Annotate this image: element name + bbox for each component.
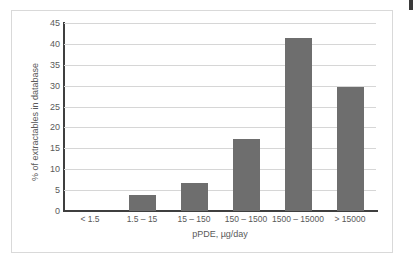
bar[interactable] <box>181 183 208 211</box>
bar[interactable] <box>129 195 156 211</box>
y-axis-tick-label: 10 <box>16 164 60 174</box>
y-axis-tick-label: 45 <box>16 18 60 28</box>
y-axis-tick-label: 40 <box>16 39 60 49</box>
y-axis-tick-label: 0 <box>16 206 60 216</box>
y-axis-tick-labels: 051015202530354045 <box>12 23 60 211</box>
bar[interactable] <box>233 139 260 211</box>
plot-area <box>64 23 376 211</box>
x-axis-title: pPDE, µg/day <box>64 229 376 239</box>
bar-slot <box>168 23 220 211</box>
x-axis-tick-label: < 1.5 <box>64 214 116 225</box>
y-axis-tick-label: 25 <box>16 102 60 112</box>
bar-slot <box>324 23 376 211</box>
y-axis-tick-label: 35 <box>16 60 60 70</box>
bar[interactable] <box>337 87 364 211</box>
bar[interactable] <box>285 38 312 211</box>
y-axis-tick-label: 20 <box>16 122 60 132</box>
x-axis-tick-label: 1.5 – 15 <box>116 214 168 225</box>
x-axis-tick-label: 15 – 150 <box>168 214 220 225</box>
x-axis-tick-labels: < 1.51.5 – 1515 – 150150 – 15001500 – 15… <box>64 214 376 225</box>
page-corner-mark <box>409 0 413 10</box>
bar-series <box>64 23 376 211</box>
bar-slot <box>64 23 116 211</box>
bar-slot <box>116 23 168 211</box>
y-axis-tick-label: 5 <box>16 185 60 195</box>
y-axis-tick-label: 30 <box>16 81 60 91</box>
bar-slot <box>220 23 272 211</box>
x-axis-tick-label: 150 – 1500 <box>220 214 272 225</box>
y-axis-tick-label: 15 <box>16 143 60 153</box>
x-axis-tick-label: > 15000 <box>324 214 376 225</box>
x-axis-tick-label: 1500 – 15000 <box>272 214 324 225</box>
bar-slot <box>272 23 324 211</box>
chart-figure: % of extractables in database 0510152025… <box>11 10 393 253</box>
